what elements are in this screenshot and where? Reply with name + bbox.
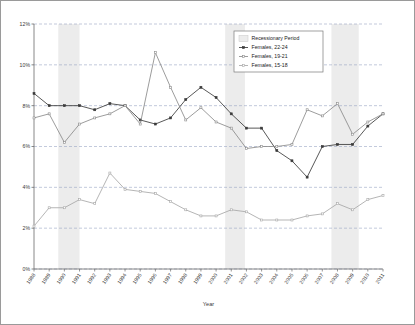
data-point-marker	[276, 219, 278, 221]
x-axis-tick-label: 1991	[70, 272, 82, 285]
x-axis-tick-label: 1994	[116, 272, 128, 285]
legend-swatch-recession	[239, 36, 248, 42]
data-point-marker	[306, 109, 308, 111]
data-point-marker	[352, 209, 354, 211]
data-point-marker	[94, 109, 96, 111]
data-point-marker	[215, 215, 217, 217]
data-point-marker	[109, 172, 111, 174]
data-point-marker	[321, 146, 323, 148]
data-point-marker	[48, 207, 50, 209]
y-axis-tick-label: 6%	[23, 143, 31, 149]
data-point-marker	[291, 219, 293, 221]
x-axis-tick-label: 2011	[374, 272, 385, 285]
data-point-marker	[382, 113, 384, 115]
series-line-0	[34, 87, 383, 177]
data-point-marker	[79, 199, 81, 201]
x-axis-tick-label: 1989	[40, 272, 52, 285]
data-point-marker	[230, 113, 232, 115]
legend-label: Females, 22-24	[252, 44, 288, 50]
x-axis-title: Year	[203, 301, 214, 307]
data-point-marker	[185, 209, 187, 211]
x-axis-tick-label: 2003	[252, 272, 264, 285]
line-chart: 0%2%4%6%8%10%12% 19881989199019911992199…	[1, 1, 415, 325]
data-point-marker	[321, 213, 323, 215]
data-point-marker	[215, 97, 217, 99]
data-point-marker	[63, 207, 65, 209]
y-axis-ticks: 0%2%4%6%8%10%12%	[20, 21, 34, 272]
data-point-marker	[336, 143, 338, 145]
x-axis-tick-label: 1993	[101, 272, 113, 285]
data-point-marker	[245, 211, 247, 213]
chart-frame: 0%2%4%6%8%10%12% 19881989199019911992199…	[0, 0, 415, 325]
data-point-marker	[367, 121, 369, 123]
series-line-1	[34, 53, 383, 149]
legend-label: Females, 15-18	[252, 62, 288, 68]
data-point-marker	[139, 190, 141, 192]
data-point-marker	[48, 113, 50, 115]
data-point-marker	[276, 146, 278, 148]
x-axis-tick-label: 1995	[131, 272, 143, 285]
x-axis-tick-label: 1999	[192, 272, 204, 285]
data-point-marker	[154, 192, 156, 194]
x-axis-tick-label: 1990	[55, 272, 67, 285]
x-axis-tick-label: 1992	[86, 272, 98, 285]
data-point-marker	[336, 203, 338, 205]
data-point-marker	[291, 143, 293, 145]
legend-label: Females, 19-21	[252, 53, 288, 59]
series-lines	[33, 52, 384, 228]
x-axis-tick-label: 1997	[161, 272, 173, 285]
data-point-marker	[215, 121, 217, 123]
data-point-marker	[63, 141, 65, 143]
data-point-marker	[185, 119, 187, 121]
legend-label: Recessionary Period	[252, 35, 300, 41]
y-axis-tick-label: 2%	[23, 225, 31, 231]
data-point-marker	[306, 176, 308, 178]
data-point-marker	[170, 201, 172, 203]
data-point-marker	[154, 123, 156, 125]
data-point-marker	[94, 203, 96, 205]
x-axis-tick-label: 2002	[237, 272, 249, 285]
x-axis-tick-label: 2006	[298, 272, 310, 285]
y-axis-tick-label: 8%	[23, 103, 31, 109]
y-axis-tick-label: 10%	[20, 62, 31, 68]
legend-marker	[243, 56, 245, 58]
x-axis-tick-label: 2000	[207, 272, 219, 285]
data-point-marker	[352, 143, 354, 145]
data-point-marker	[382, 195, 384, 197]
data-point-marker	[245, 127, 247, 129]
data-point-marker	[245, 148, 247, 150]
data-point-marker	[154, 52, 156, 54]
x-axis-tick-label: 2005	[283, 272, 295, 285]
gridlines	[34, 24, 383, 269]
data-point-marker	[79, 123, 81, 125]
data-point-marker	[109, 113, 111, 115]
x-axis-tick-label: 2009	[344, 272, 356, 285]
y-axis-tick-label: 4%	[23, 184, 31, 190]
series-line-2	[34, 173, 383, 226]
data-point-marker	[230, 127, 232, 129]
data-point-marker	[367, 125, 369, 127]
data-point-marker	[367, 199, 369, 201]
x-axis-tick-label: 1998	[177, 272, 189, 285]
data-point-marker	[79, 105, 81, 107]
legend-marker	[243, 65, 245, 67]
legend-box: Recessionary PeriodFemales, 22-24Females…	[234, 31, 323, 72]
data-point-marker	[48, 105, 50, 107]
data-point-marker	[200, 107, 202, 109]
data-point-marker	[185, 99, 187, 101]
data-point-marker	[124, 188, 126, 190]
data-point-marker	[291, 160, 293, 162]
legend-marker	[243, 47, 245, 49]
x-axis-tick-label: 2004	[268, 272, 280, 285]
x-axis-tick-label: 1996	[146, 272, 158, 285]
data-point-marker	[33, 117, 35, 119]
data-point-marker	[63, 105, 65, 107]
y-axis-tick-label: 0%	[23, 266, 31, 272]
data-point-marker	[33, 225, 35, 227]
x-axis-ticks: 1988198919901991199219931994199519961997…	[25, 269, 386, 285]
data-point-marker	[139, 123, 141, 125]
data-point-marker	[261, 127, 263, 129]
data-point-marker	[261, 219, 263, 221]
x-axis-tick-label: 1988	[25, 272, 37, 285]
data-point-marker	[306, 215, 308, 217]
